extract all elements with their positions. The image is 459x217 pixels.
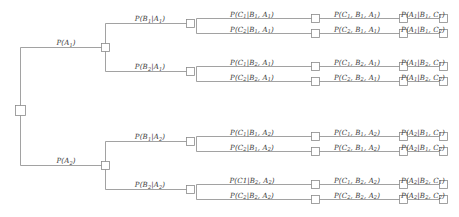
label-p-b1-a1: P(B1|A1)	[135, 14, 165, 23]
node-a2	[102, 162, 110, 170]
label-cond-4-2: P(C2|B2, A2)	[230, 191, 274, 200]
node-c-3-1	[312, 133, 320, 141]
node-b2a2	[187, 186, 195, 194]
label-p-b2-a2: P(B2|A2)	[135, 180, 165, 189]
label-cond-2-1: P(C1|B2, A1)	[230, 58, 274, 67]
probability-tree-diagram: P(A1) P(A2) P(B1|A1) P(B2|A1) P(B1|A2) P…	[0, 0, 459, 217]
label-post-2-1: P(A1|B2, C1)	[401, 58, 445, 67]
label-post-4-1: P(A2|B2, C1)	[401, 176, 445, 185]
label-joint-2-1: P(C1, B2, A1)	[334, 58, 380, 67]
label-joint-2-2: P(C2, B2, A1)	[334, 73, 380, 82]
label-cond-4-1: P(C1|B2, A2)	[229, 176, 274, 185]
label-post-3-1: P(A2|B1, C1)	[401, 128, 445, 137]
label-joint-4-1: P(C1, B2, A2)	[334, 176, 380, 185]
label-joint-1-2: P(C2, B1, A1)	[334, 25, 380, 34]
node-c-1-2	[312, 30, 320, 38]
label-post-3-2: P(A2|B1, C2)	[401, 143, 445, 152]
label-post-2-2: P(A1|B2, C2)	[401, 73, 445, 82]
label-post-1-1: P(A1|B1, C1)	[401, 10, 445, 19]
label-cond-1-1: P(C1|B1, A1)	[230, 10, 274, 19]
node-b1a2	[187, 138, 195, 146]
label-post-1-2: P(A1|B1, C2)	[401, 25, 445, 34]
node-a1	[102, 44, 110, 52]
label-joint-4-2: P(C2, B2, A2)	[334, 191, 380, 200]
label-cond-2-2: P(C2|B2, A1)	[230, 73, 274, 82]
label-cond-1-2: P(C2|B1, A1)	[230, 25, 274, 34]
label-joint-1-1: P(C1, B1, A1)	[334, 10, 380, 19]
node-c-3-2	[312, 148, 320, 156]
node-b1a1	[187, 20, 195, 28]
label-cond-3-2: P(C2|B1, A2)	[230, 143, 274, 152]
node-c-1-1	[312, 15, 320, 23]
node-c-4-2	[312, 196, 320, 204]
label-p-a1: P(A1)	[56, 38, 75, 47]
label-p-b2-a1: P(B2|A1)	[135, 62, 165, 71]
node-b2a1	[187, 68, 195, 76]
root-node	[16, 106, 26, 116]
node-c-4-1	[312, 181, 320, 189]
label-post-4-2: P(A2|B2, C2)	[401, 191, 445, 200]
label-p-a2: P(A2)	[56, 156, 75, 165]
node-c-2-2	[312, 78, 320, 86]
node-c-2-1	[312, 63, 320, 71]
label-p-b1-a2: P(B1|A2)	[135, 132, 165, 141]
label-joint-3-2: P(C2, B1, A2)	[334, 143, 380, 152]
label-joint-3-1: P(C1, B1, A2)	[334, 128, 380, 137]
label-cond-3-1: P(C1|B1, A2)	[230, 128, 274, 137]
